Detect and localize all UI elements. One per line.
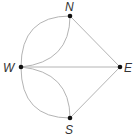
label-w: W [3, 61, 16, 75]
label-e: E [124, 61, 133, 75]
vertex-e [118, 65, 123, 70]
graph-diagram: N E S W [0, 0, 138, 139]
vertex-w [19, 65, 24, 70]
vertex-n [68, 14, 73, 19]
label-n: N [65, 0, 74, 14]
edge-w-s-outer [21, 67, 70, 118]
edge-w-n-outer [21, 16, 70, 67]
vertex-s [68, 116, 73, 121]
edge-s-e [70, 67, 120, 118]
label-s: S [65, 123, 73, 137]
edge-n-e [70, 16, 120, 67]
edge-w-n-inner [21, 16, 70, 67]
edge-w-s-inner [21, 67, 70, 118]
